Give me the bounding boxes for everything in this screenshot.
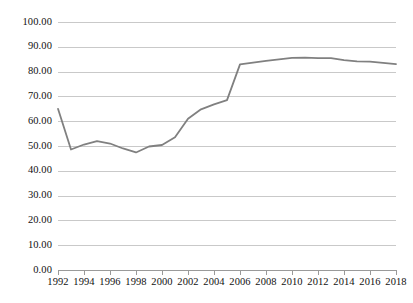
x-tick-label-2016: 2016	[359, 277, 380, 288]
x-tick-label-2010: 2010	[281, 277, 302, 288]
x-tick-label-1996: 1996	[99, 277, 120, 288]
y-tick-label-80.00: 80.00	[0, 66, 52, 77]
y-tick-label-10.00: 10.00	[0, 240, 52, 251]
y-tick-label-50.00: 50.00	[0, 141, 52, 152]
x-tick-1996	[110, 270, 111, 275]
x-tick-2014	[344, 270, 345, 275]
y-tick-label-60.00: 60.00	[0, 116, 52, 127]
plot-area	[58, 22, 396, 270]
x-tick-1994	[84, 270, 85, 275]
x-tick-label-2018: 2018	[385, 277, 406, 288]
x-tick-1992	[58, 270, 59, 275]
x-tick-label-2000: 2000	[151, 277, 172, 288]
x-tick-label-2014: 2014	[333, 277, 354, 288]
y-tick-label-40.00: 40.00	[0, 165, 52, 176]
series-polyline	[58, 58, 396, 153]
x-tick-2004	[214, 270, 215, 275]
y-tick-label-20.00: 20.00	[0, 215, 52, 226]
x-tick-2008	[266, 270, 267, 275]
x-tick-2006	[240, 270, 241, 275]
x-axis-labels: 1992199419961998200020022004200620082010…	[0, 277, 413, 297]
y-tick-label-90.00: 90.00	[0, 41, 52, 52]
x-tick-2016	[370, 270, 371, 275]
y-tick-label-100.00: 100.00	[0, 17, 52, 28]
x-tick-label-2004: 2004	[203, 277, 224, 288]
x-tick-label-1992: 1992	[47, 277, 68, 288]
y-tick-label-0.00: 0.00	[0, 265, 52, 276]
y-tick-label-30.00: 30.00	[0, 190, 52, 201]
series-line-1	[58, 22, 396, 270]
y-axis-labels: 0.0010.0020.0030.0040.0050.0060.0070.008…	[0, 22, 52, 270]
x-tick-label-2002: 2002	[177, 277, 198, 288]
x-tick-2002	[188, 270, 189, 275]
line-chart: 0.0010.0020.0030.0040.0050.0060.0070.008…	[0, 0, 413, 303]
x-tick-label-2012: 2012	[307, 277, 328, 288]
x-tick-2018	[396, 270, 397, 275]
x-tick-label-2006: 2006	[229, 277, 250, 288]
x-tick-2000	[162, 270, 163, 275]
x-tick-1998	[136, 270, 137, 275]
x-tick-label-1998: 1998	[125, 277, 146, 288]
x-axis-ticks	[58, 270, 396, 275]
x-tick-label-1994: 1994	[73, 277, 94, 288]
y-tick-label-70.00: 70.00	[0, 91, 52, 102]
x-tick-2010	[292, 270, 293, 275]
x-tick-2012	[318, 270, 319, 275]
x-tick-label-2008: 2008	[255, 277, 276, 288]
